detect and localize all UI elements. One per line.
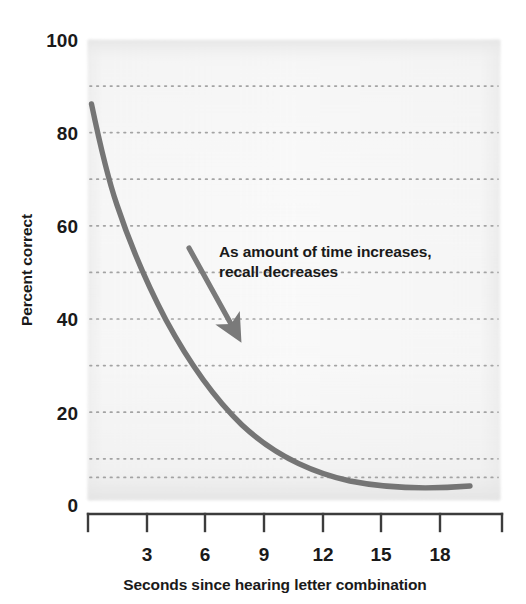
- x-tick-label-12: 12: [312, 544, 333, 565]
- y-tick-label-100: 100: [46, 30, 78, 51]
- x-tick-label-9: 9: [259, 544, 270, 565]
- y-tick-label-0: 0: [67, 495, 78, 516]
- y-axis: 100 80 60 40 20 0 Percent correct: [18, 30, 78, 517]
- x-axis-title: Seconds since hearing letter combination: [123, 576, 427, 593]
- y-tick-label-20: 20: [57, 403, 78, 424]
- y-tick-label-80: 80: [57, 123, 78, 144]
- x-tick-label-6: 6: [200, 544, 211, 565]
- y-tick-label-40: 40: [57, 309, 78, 330]
- y-tick-label-60: 60: [57, 216, 78, 237]
- annotation-line-1: As amount of time increases,: [219, 243, 432, 260]
- x-tick-label-18: 18: [429, 544, 450, 565]
- x-tick-label-3: 3: [142, 544, 153, 565]
- x-tick-label-15: 15: [370, 544, 392, 565]
- y-axis-title: Percent correct: [18, 214, 35, 326]
- x-axis: 3 6 9 12 15 18 Seconds since hearing let…: [88, 514, 502, 593]
- annotation-line-2: recall decreases: [219, 263, 338, 280]
- percent-correct-line-chart: As amount of time increases, recall decr…: [0, 0, 526, 604]
